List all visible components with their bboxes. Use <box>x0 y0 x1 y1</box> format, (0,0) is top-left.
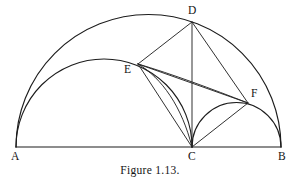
vertex-label-f: F <box>251 88 258 100</box>
arc-semicircle-cb <box>192 103 281 148</box>
vertex-label-e: E <box>124 64 131 76</box>
segment-d-to-e <box>138 22 192 64</box>
vertex-label-d: D <box>188 5 197 17</box>
segment-c-to-f <box>192 103 248 147</box>
figure-caption: Figure 1.13. <box>0 164 300 176</box>
segment-e-to-f <box>138 64 248 103</box>
segment-d-to-f <box>192 22 248 103</box>
vertex-label-c: C <box>188 151 196 163</box>
segment-e-to-c <box>138 64 192 147</box>
vertex-label-b: B <box>278 151 286 163</box>
vertex-label-a: A <box>11 151 20 163</box>
arc-semicircle-ac <box>16 59 192 147</box>
figure-container: A B C D E F Figure 1.13. <box>0 0 300 188</box>
